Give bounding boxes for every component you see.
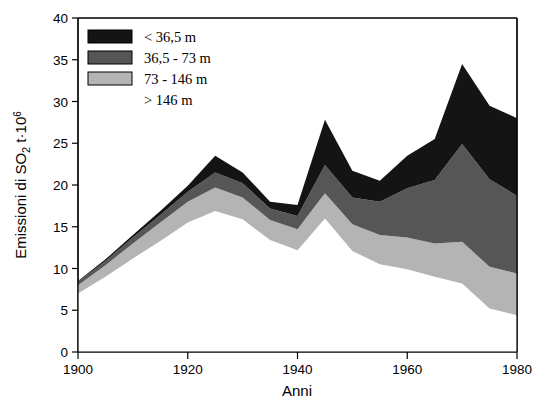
x-tick-label-1940: 1940 [282,362,312,377]
y-tick-label-15: 15 [53,220,68,235]
y-axis-title-sup: 6 [12,111,23,117]
y-tick-label-35: 35 [53,53,68,68]
x-tick-layer: 19001920194019601980 [63,352,532,377]
x-tick-label-1920: 1920 [173,362,203,377]
svg-text:Emissioni di SO2 t·106: Emissioni di SO2 t·106 [12,111,32,259]
x-axis-title: Anni [282,382,312,399]
x-tick-label-1980: 1980 [502,362,532,377]
y-tick-label-0: 0 [60,345,68,360]
legend: < 36,5 m36,5 - 73 m73 - 146 m> 146 m [88,29,212,108]
x-tick-label-1900: 1900 [63,362,93,377]
legend-label-2: 73 - 146 m [144,71,208,87]
y-tick-label-25: 25 [53,136,68,151]
y-axis-title-main: Emissioni di SO [12,153,29,259]
x-tick-label-1960: 1960 [392,362,422,377]
legend-swatch-0 [88,30,132,43]
y-axis-title: Emissioni di SO2 t·106 [12,111,32,259]
legend-label-3: > 146 m [144,92,193,108]
y-tick-layer: 0510152025303540 [53,11,78,360]
y-tick-label-10: 10 [53,262,68,277]
y-axis-title-mid: t·10 [12,117,29,147]
y-tick-label-5: 5 [60,303,68,318]
y-tick-label-40: 40 [53,11,68,26]
y-tick-label-30: 30 [53,95,68,110]
legend-swatch-1 [88,51,132,64]
legend-label-1: 36,5 - 73 m [144,50,212,66]
legend-label-0: < 36,5 m [144,29,197,45]
legend-swatch-2 [88,72,132,85]
y-tick-label-20: 20 [53,178,68,193]
chart-figure: 0510152025303540 19001920194019601980 An… [0,0,540,405]
stacked-area-chart: 0510152025303540 19001920194019601980 An… [0,0,540,405]
